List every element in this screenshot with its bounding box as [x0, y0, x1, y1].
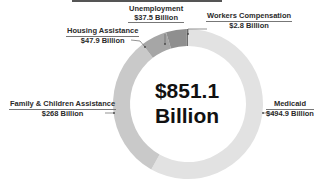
label-value: $268 Billion	[9, 110, 116, 119]
label-value: $37.5 Billion	[128, 14, 184, 24]
total-amount: $851.1	[127, 78, 247, 103]
label-family-children-assistance: Family & Children Assistance $268 Billio…	[9, 100, 116, 118]
label-value: $47.9 Billion	[66, 37, 139, 46]
label-housing-assistance: Housing Assistance $47.9 Billion	[66, 27, 139, 45]
label-value: $2.8 Billion	[206, 22, 292, 31]
donut-center-total: $851.1 Billion	[127, 78, 247, 128]
total-unit: Billion	[127, 103, 247, 128]
label-unemployment: Unemployment $37.5 Billion	[128, 5, 184, 23]
label-workers-compensation: Workers Compensation $2.8 Billion	[206, 12, 292, 30]
label-value: $494.9 Billion	[266, 110, 314, 119]
label-medicaid: Medicaid $494.9 Billion	[266, 100, 314, 118]
